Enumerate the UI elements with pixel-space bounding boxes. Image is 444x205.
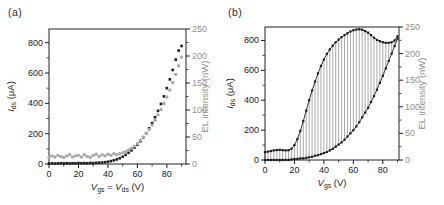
svg-text:80: 80 [378,165,388,175]
svg-text:20: 20 [73,169,83,179]
y-left-label: Ids (μA) [224,78,236,109]
svg-text:50: 50 [192,132,202,142]
svg-text:0: 0 [192,159,197,169]
y-axis-left: 0200400600800 [28,38,49,169]
svg-text:200: 200 [192,51,207,61]
panel-a: (a) 020406080020040060080005010015020025… [0,0,222,205]
svg-text:250: 250 [405,22,420,32]
svg-text:200: 200 [244,125,259,135]
figure: (a) 020406080020040060080005010015020025… [0,0,444,205]
panel-b-plot: 0204060800200400600800050100150200250Vgs… [222,0,444,205]
svg-text:40: 40 [319,165,329,175]
x-axis-label: Vgs = Vds (V) [91,181,144,194]
svg-text:0: 0 [46,169,51,179]
y-axis-left: 0200400600800 [244,35,265,165]
x-axis-label: Vgs (V) [318,177,347,190]
svg-text:600: 600 [244,65,259,75]
svg-text:20: 20 [289,165,299,175]
svg-text:800: 800 [28,38,43,48]
svg-text:60: 60 [132,169,142,179]
hatch-area [265,29,398,160]
panel-a-plot: 0204060800200400600800050100150200250Vgs… [0,0,222,205]
panel-b: (b) 020406080020040060080005010015020025… [222,0,444,205]
y-right-label: EL intensity (nW) [416,58,427,130]
svg-text:250: 250 [192,24,207,34]
svg-text:800: 800 [244,35,259,45]
svg-text:0: 0 [38,159,43,169]
svg-text:200: 200 [405,49,420,59]
y-left-label: Ids (μA) [5,81,17,112]
svg-text:400: 400 [244,95,259,105]
svg-text:50: 50 [405,128,415,138]
svg-text:600: 600 [28,68,43,78]
y-right-label: EL intensity (nW) [199,61,210,133]
x-axis: 020406080 [262,160,397,175]
svg-text:0: 0 [405,155,410,165]
series-el [264,38,399,161]
series-el [47,55,183,159]
svg-text:80: 80 [162,169,172,179]
svg-text:0: 0 [254,155,259,165]
x-axis: 020406080 [46,164,181,179]
svg-text:60: 60 [348,165,358,175]
svg-text:200: 200 [28,129,43,139]
series-ids [48,45,183,165]
series-ids [264,28,399,153]
svg-text:0: 0 [262,165,267,175]
svg-text:400: 400 [28,98,43,108]
svg-text:40: 40 [103,169,113,179]
